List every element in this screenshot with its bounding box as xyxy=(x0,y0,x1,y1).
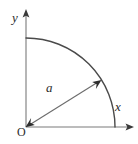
origin-label: O xyxy=(17,126,26,138)
figure-container: y x a O xyxy=(0,0,138,144)
radius-label: a xyxy=(46,81,53,94)
y-axis-label: y xyxy=(12,11,18,24)
x-axis-label: x xyxy=(115,100,121,113)
quarter-circle-arc xyxy=(26,38,115,127)
quarter-circle-diagram xyxy=(0,0,138,144)
radius-arrow-shaft xyxy=(31,83,97,124)
